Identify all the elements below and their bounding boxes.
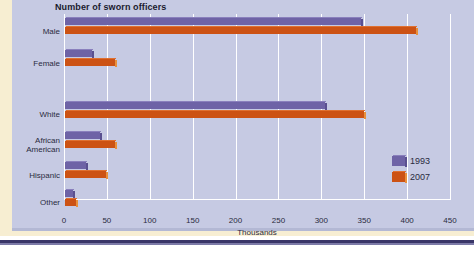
x-axis-label: Thousands — [64, 228, 450, 237]
legend-swatch-2007-icon — [392, 172, 405, 182]
x-tick-label: 50 — [102, 216, 111, 225]
legend-item-2007[interactable]: 2007 — [392, 172, 462, 182]
x-tick-label: 350 — [358, 216, 371, 225]
bar-2007 — [65, 141, 115, 148]
x-axis-line — [64, 199, 450, 200]
category-label: Hispanic — [0, 171, 60, 180]
bar-1993 — [65, 102, 325, 109]
x-tick-label: 300 — [315, 216, 328, 225]
legend-item-1993[interactable]: 1993 — [392, 156, 462, 166]
chart-legend: 1993 2007 — [392, 156, 462, 188]
gridline — [364, 14, 365, 200]
bar-1993 — [65, 50, 92, 57]
legend-label-1993: 1993 — [410, 156, 430, 166]
bar-2007 — [65, 27, 416, 34]
bar-2007 — [65, 111, 364, 118]
chart-title: Number of sworn officers — [55, 2, 166, 12]
bar-2007 — [65, 59, 115, 66]
category-label: Other — [0, 198, 60, 207]
bottom-rule-light — [0, 243, 474, 245]
x-tick-label: 200 — [229, 216, 242, 225]
x-tick-label: 250 — [272, 216, 285, 225]
legend-swatch-1993-icon — [392, 156, 405, 166]
bar-2007 — [65, 171, 106, 178]
x-tick-label: 450 — [443, 216, 456, 225]
legend-label-2007: 2007 — [410, 172, 430, 182]
category-label: African American — [0, 136, 60, 154]
category-label: Male — [0, 27, 60, 36]
chart-page: Number of sworn officers 050100150200250… — [0, 0, 474, 253]
category-label: White — [0, 110, 60, 119]
x-tick-label: 100 — [143, 216, 156, 225]
x-tick-label: 150 — [186, 216, 199, 225]
x-tick-label: 400 — [400, 216, 413, 225]
x-tick-label: 0 — [62, 216, 66, 225]
bar-1993 — [65, 18, 361, 25]
bar-1993 — [65, 132, 100, 139]
category-label: Female — [0, 59, 60, 68]
bar-1993 — [65, 190, 73, 197]
bar-2007 — [65, 199, 76, 206]
bar-1993 — [65, 162, 86, 169]
